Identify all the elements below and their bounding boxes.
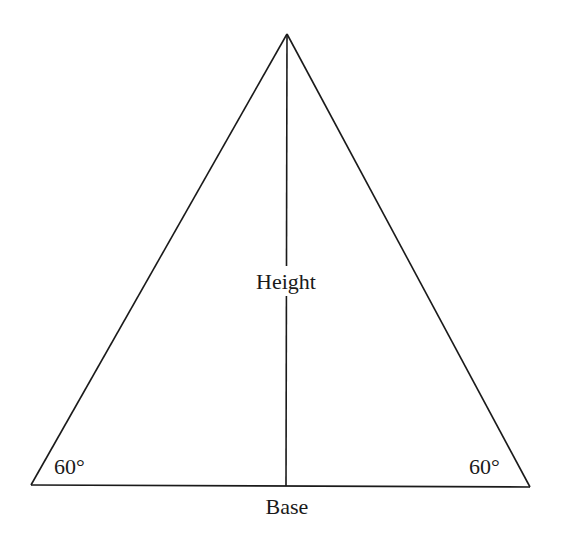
height-line [286,34,287,486]
triangle-outline [31,34,530,487]
right-side [287,34,530,487]
angle-right-label: 60° [469,454,500,479]
base-label: Base [266,494,309,519]
angle-left-label: 60° [54,454,85,479]
triangle-diagram: Height Base 60° 60° [0,0,570,547]
base-line [31,485,530,487]
left-side [31,34,287,485]
height-label: Height [256,269,316,294]
